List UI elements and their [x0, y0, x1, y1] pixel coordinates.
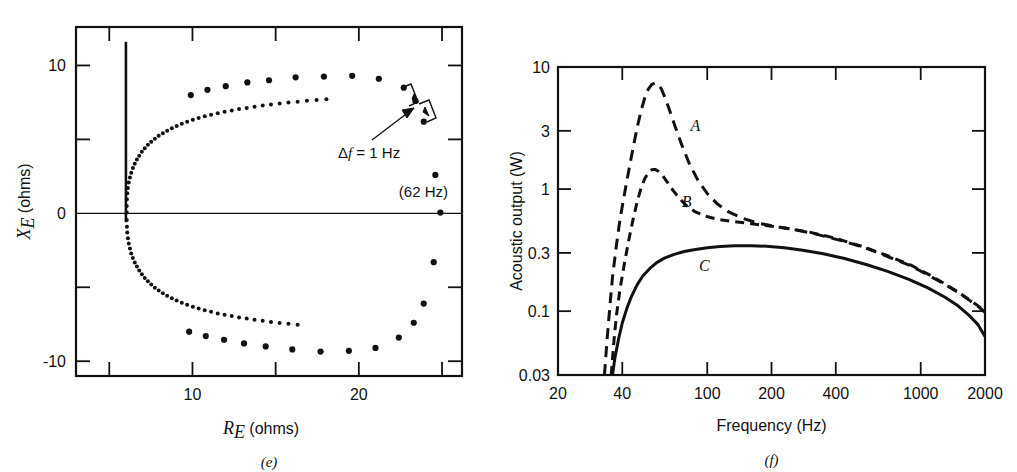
data-point	[197, 307, 201, 311]
data-point	[125, 225, 129, 229]
data-point	[191, 118, 195, 122]
data-point	[161, 291, 165, 295]
curve-label-A: A	[689, 117, 700, 134]
data-point	[157, 134, 161, 138]
data-point	[203, 114, 207, 118]
curve-B	[611, 169, 985, 375]
y-tick-label: 10	[532, 59, 550, 76]
y-axis-title: Acoustic output (W)	[508, 151, 525, 291]
data-point	[241, 340, 247, 346]
data-point	[253, 105, 257, 109]
data-point	[237, 315, 241, 319]
data-point	[185, 120, 189, 124]
data-point	[128, 247, 132, 251]
data-point	[125, 204, 129, 208]
data-point	[269, 320, 273, 324]
data-point	[421, 119, 427, 125]
curve-C	[613, 246, 986, 375]
data-point	[346, 348, 352, 354]
data-point	[244, 79, 250, 85]
data-point	[263, 343, 269, 349]
y-tick-label: 3	[541, 123, 550, 140]
data-point	[216, 111, 220, 115]
data-point	[157, 289, 161, 293]
data-point	[140, 272, 144, 276]
data-point	[223, 83, 229, 89]
delta-f-annotation-graphic	[372, 84, 436, 140]
panel-caption: (f)	[764, 452, 778, 469]
data-point	[186, 329, 192, 335]
data-point	[125, 191, 129, 195]
data-point	[128, 176, 132, 180]
data-point	[191, 305, 195, 309]
svg-text:XE (ohms): XE (ohms)	[14, 163, 38, 240]
data-point	[126, 236, 130, 240]
data-point	[230, 108, 234, 112]
data-point	[129, 171, 133, 175]
data-point	[143, 146, 147, 150]
data-point	[266, 77, 272, 83]
data-point	[431, 259, 437, 265]
caliper-arrowhead-lower	[423, 107, 429, 116]
data-point	[432, 172, 438, 178]
data-point	[175, 124, 179, 128]
x-tick-label: 40	[613, 385, 631, 402]
data-point	[203, 308, 207, 312]
data-point	[126, 186, 130, 190]
panel-e-impedance-locus: 100-101020Δf = 1 Hz(62 Hz)RE (ohms)XE (o…	[0, 0, 510, 472]
x-tick-label: 1000	[903, 385, 939, 402]
data-point	[137, 154, 141, 158]
data-point	[125, 231, 129, 235]
panel-f-svg: 10310.30.10.03204010020040010002000ABCFr…	[500, 0, 1017, 472]
svg-text:Acoustic output (W): Acoustic output (W)	[508, 151, 525, 291]
data-point	[129, 251, 133, 255]
data-point	[203, 333, 209, 339]
data-point	[146, 143, 150, 147]
data-point	[269, 102, 273, 106]
data-point	[286, 101, 290, 105]
data-point	[396, 334, 402, 340]
data-point	[131, 166, 135, 170]
delta-f-label: Δf = 1 Hz	[338, 144, 400, 161]
data-point	[125, 218, 129, 222]
data-point	[161, 131, 165, 135]
x-tick-label: 400	[822, 385, 849, 402]
curve-A	[604, 83, 985, 375]
data-point	[289, 346, 295, 352]
data-point	[209, 113, 213, 117]
data-point	[317, 348, 323, 354]
data-point	[324, 97, 328, 101]
resonance-frequency-label: (62 Hz)	[399, 183, 448, 200]
data-point	[153, 286, 157, 290]
curve-label-B: B	[682, 193, 692, 210]
data-point	[140, 150, 144, 154]
data-point	[411, 320, 417, 326]
data-point	[305, 99, 309, 103]
data-point	[278, 101, 282, 105]
x-tick-label: 10	[184, 386, 202, 403]
x-tick-label: 20	[549, 385, 567, 402]
data-point	[127, 241, 131, 245]
data-point	[223, 313, 227, 317]
data-point	[261, 319, 265, 323]
data-point	[135, 158, 139, 162]
data-point	[221, 337, 227, 343]
panel-f-acoustic-output: 10310.30.10.03204010020040010002000ABCFr…	[500, 0, 1017, 472]
data-point	[197, 116, 201, 120]
data-point	[296, 100, 300, 104]
x-tick-label: 100	[694, 385, 721, 402]
data-point	[185, 303, 189, 307]
data-point	[204, 87, 210, 93]
x-tick-label: 20	[350, 386, 368, 403]
data-point	[253, 318, 257, 322]
data-point	[149, 140, 153, 144]
data-point	[349, 73, 355, 79]
data-point	[125, 197, 129, 201]
y-tick-label: 0	[57, 205, 66, 222]
x-axis-title: RE (ohms)	[222, 418, 299, 442]
curve-label-C: C	[699, 257, 710, 274]
data-point	[437, 209, 443, 215]
data-point	[286, 322, 290, 326]
data-point	[315, 98, 319, 102]
y-tick-label: 10	[48, 57, 66, 74]
